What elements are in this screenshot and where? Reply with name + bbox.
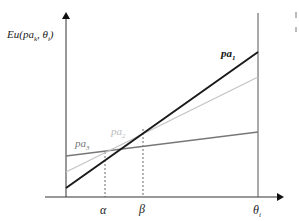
theta-axis-label: θi: [253, 203, 261, 219]
beta-tick-label: β: [139, 202, 145, 217]
y-axis-arrow-icon: [62, 12, 70, 19]
pa1-line: [66, 52, 258, 188]
edge-mark: [295, 27, 297, 32]
pa3-label: pa3: [75, 137, 90, 152]
pa1-label: pa1: [221, 47, 236, 62]
x-axis-arrow-icon: [277, 193, 284, 201]
pa2-label: pa2: [111, 125, 126, 140]
pa2-line: [66, 77, 258, 172]
y-axis-label: Eu(pak, θi): [7, 28, 54, 43]
pa3-line: [66, 132, 258, 156]
alpha-tick-label: α: [100, 203, 106, 218]
edge-mark: [295, 12, 297, 18]
